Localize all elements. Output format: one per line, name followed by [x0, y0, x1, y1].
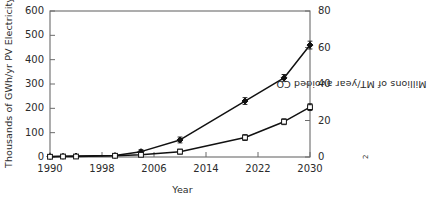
data-point-marker: [48, 154, 53, 159]
data-point-marker: [178, 149, 183, 154]
y-axis-left-tick-label: 200: [14, 102, 44, 113]
y-axis-left-tick-label: 600: [14, 5, 44, 16]
series-2: [48, 104, 313, 159]
data-point-marker: [61, 154, 66, 159]
data-point-marker: [243, 135, 248, 140]
x-axis-tick-label: 1998: [82, 163, 122, 174]
data-point-marker: [74, 154, 79, 159]
y-axis-left-tick-label: 500: [14, 29, 44, 40]
y-axis-left-tick-label: 0: [14, 151, 44, 162]
y-axis-right-tick-label: 80: [318, 5, 348, 16]
series-1: [47, 41, 313, 159]
plot-frame: [50, 11, 310, 157]
y-axis-left-tick-label: 400: [14, 54, 44, 65]
data-point-marker: [113, 153, 118, 158]
x-axis-tick-label: 1990: [30, 163, 70, 174]
y-axis-left-tick-label: 100: [14, 127, 44, 138]
x-axis-tick-label: 2022: [238, 163, 278, 174]
x-axis-tick-label: 2006: [134, 163, 174, 174]
data-point-marker: [139, 152, 144, 157]
x-axis-tick-label: 2030: [290, 163, 330, 174]
data-point-marker: [282, 119, 287, 124]
data-point-marker: [308, 105, 313, 110]
y-axis-right-tick-label: 0: [318, 151, 348, 162]
y-axis-right-tick-label: 40: [318, 78, 348, 89]
y-axis-right-tick-label: 20: [318, 115, 348, 126]
y-axis-left-tick-label: 300: [14, 78, 44, 89]
x-axis-tick-label: 2014: [186, 163, 226, 174]
y-axis-right-tick-label: 60: [318, 42, 348, 53]
